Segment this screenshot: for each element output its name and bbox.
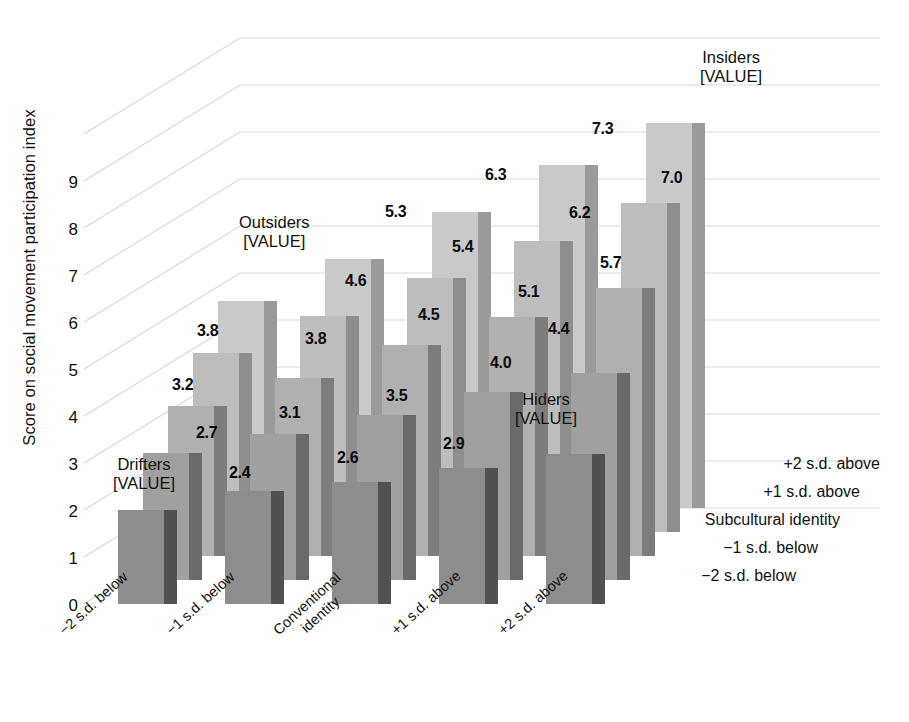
annotation-hiders-line1: Hiders (515, 390, 577, 409)
y-tick-3: 3 (52, 456, 78, 473)
value-label-2-7: 2.7 (196, 424, 217, 442)
bar-side (692, 123, 705, 508)
annotation-insiders-line1: Insiders (700, 48, 762, 67)
value-label-3-2: 3.2 (172, 376, 193, 394)
z-tick-plus1: +1 s.d. above (620, 483, 860, 501)
value-label-3-8b: 3.8 (305, 330, 326, 348)
bar-side (403, 415, 416, 580)
value-label-4-6: 4.6 (345, 272, 366, 290)
y-axis-title: Score on social movement participation i… (20, 63, 39, 493)
annotation-insiders-line2: [VALUE] (700, 67, 762, 86)
bar-g1-d0 (225, 491, 271, 604)
bar-side (164, 510, 177, 604)
y-tick-8: 8 (52, 221, 78, 238)
value-label-3-5: 3.5 (386, 387, 407, 405)
bar-g0-d0 (118, 510, 164, 604)
bar-side (296, 434, 309, 580)
value-label-5-4: 5.4 (452, 238, 473, 256)
annotation-hiders: Hiders [VALUE] (515, 390, 577, 429)
z-tick-minus1: −1 s.d. below (578, 539, 818, 557)
y-tick-4: 4 (52, 409, 78, 426)
annotation-outsiders-line2: [VALUE] (239, 232, 310, 251)
z-tick-minus2: −2 s.d. below (556, 567, 796, 585)
annotation-drifters-line2: [VALUE] (113, 474, 175, 493)
value-label-4-4: 4.4 (548, 320, 569, 338)
value-label-5-1: 5.1 (518, 283, 539, 301)
value-label-5-3: 5.3 (385, 203, 406, 221)
value-label-4-0: 4.0 (490, 354, 511, 372)
bar-side (378, 482, 391, 604)
value-label-2-4: 2.4 (229, 464, 250, 482)
bar-side (485, 468, 498, 604)
value-label-3-1: 3.1 (279, 404, 300, 422)
z-tick-plus2: +2 s.d. above (640, 455, 880, 473)
y-tick-2: 2 (52, 503, 78, 520)
bar-front (225, 491, 271, 604)
annotation-drifters-line1: Drifters (113, 455, 175, 474)
annotation-drifters: Drifters [VALUE] (113, 455, 175, 494)
y-tick-7: 7 (52, 268, 78, 285)
y-tick-5: 5 (52, 362, 78, 379)
y-tick-9: 9 (52, 174, 78, 191)
y-tick-6: 6 (52, 315, 78, 332)
bar-side (271, 491, 284, 604)
annotation-insiders: Insiders [VALUE] (700, 48, 762, 87)
value-label-7-3: 7.3 (592, 120, 613, 138)
value-label-6-2: 6.2 (569, 204, 590, 222)
z-tick-center: Subcultural identity (600, 511, 840, 529)
value-label-6-3: 6.3 (485, 166, 506, 184)
value-label-7-0: 7.0 (661, 169, 682, 187)
annotation-outsiders: Outsiders [VALUE] (239, 213, 310, 252)
annotation-outsiders-line1: Outsiders (239, 213, 310, 232)
value-label-5-7: 5.7 (600, 254, 621, 272)
annotation-hiders-line2: [VALUE] (515, 409, 577, 428)
value-label-2-9: 2.9 (443, 435, 464, 453)
value-label-4-5: 4.5 (418, 306, 439, 324)
bar-front (118, 510, 164, 604)
bar-side (189, 453, 202, 580)
chart-canvas: Score on social movement participation i… (0, 0, 909, 722)
value-label-2-6: 2.6 (337, 449, 358, 467)
value-label-3-8a: 3.8 (197, 322, 218, 340)
y-tick-1: 1 (52, 550, 78, 567)
